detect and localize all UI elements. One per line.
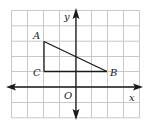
- x-axis-label: x: [129, 92, 135, 103]
- vertex-label-b: B: [109, 67, 117, 78]
- vertex-label-a: A: [32, 30, 40, 41]
- vertex-label-c: C: [33, 67, 41, 78]
- x-axis: [6, 84, 143, 91]
- origin-label: O: [64, 90, 72, 101]
- coordinate-plane-figure: A B C y x O: [0, 0, 150, 128]
- y-axis: [73, 8, 80, 120]
- y-axis-label: y: [63, 11, 70, 22]
